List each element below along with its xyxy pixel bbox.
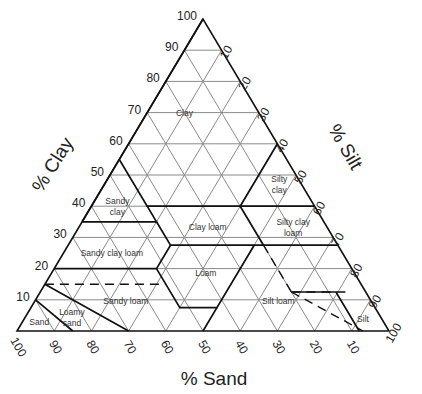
sand-tick-label: 50 bbox=[195, 338, 214, 357]
clay-tick-label: 20 bbox=[35, 259, 49, 273]
class-label-clay: Clay bbox=[176, 108, 194, 118]
clay-tick-label: 90 bbox=[165, 40, 179, 54]
class-label-line: Sand bbox=[29, 317, 49, 327]
sand-tick-label: 30 bbox=[269, 338, 288, 357]
clay-tick-label: 100 bbox=[177, 9, 197, 23]
class-label-line: Silty bbox=[271, 174, 288, 184]
class-label-line: Silt bbox=[357, 314, 369, 324]
sand-tick-label: 100 bbox=[7, 335, 29, 360]
class-label-sandy-clay-loam: Sandy clay loam bbox=[81, 248, 143, 258]
clay-tick-label: 70 bbox=[128, 103, 142, 117]
grid-lines bbox=[36, 50, 371, 331]
clay-tick-label: 30 bbox=[53, 227, 67, 241]
sand-tick-label: 80 bbox=[83, 338, 102, 357]
class-label-silty-clay-loam: Silty clayloam bbox=[276, 217, 310, 238]
sand-axis-ticks: 100908070605040302010 bbox=[7, 335, 362, 360]
class-label-line: Silt loam bbox=[262, 296, 295, 306]
grid-line-silt bbox=[277, 237, 333, 331]
class-label-loamy-sand: Loamysand bbox=[59, 307, 85, 328]
class-label-line: Loamy bbox=[59, 307, 85, 317]
sand-tick-label: 20 bbox=[307, 338, 326, 357]
class-label-line: loam bbox=[284, 228, 302, 238]
sand-tick-label: 90 bbox=[46, 338, 65, 357]
clay-tick-label: 60 bbox=[109, 134, 123, 148]
clay-tick-label: 50 bbox=[91, 165, 105, 179]
class-boundary bbox=[291, 292, 359, 331]
class-label-silty-clay: Siltyclay bbox=[271, 174, 288, 195]
class-label-line: Sandy loam bbox=[103, 296, 148, 306]
class-label-line: Loam bbox=[195, 268, 216, 278]
class-boundary bbox=[157, 222, 338, 245]
class-label-sandy-loam: Sandy loam bbox=[103, 296, 148, 306]
soil-texture-triangle: 102030405060708090100 102030405060708090… bbox=[0, 0, 422, 394]
class-label-loam: Loam bbox=[195, 268, 216, 278]
class-label-line: Clay bbox=[176, 108, 194, 118]
class-label-line: Clay loam bbox=[189, 222, 227, 232]
sand-tick-label: 60 bbox=[158, 338, 177, 357]
grid-line-sand bbox=[184, 50, 351, 331]
sand-tick-label: 40 bbox=[232, 338, 251, 357]
class-label-line: Sandy bbox=[105, 196, 130, 206]
clay-axis-ticks: 102030405060708090100 bbox=[16, 9, 197, 304]
class-boundary bbox=[203, 308, 217, 331]
clay-tick-label: 40 bbox=[72, 196, 86, 210]
class-label-line: clay bbox=[110, 207, 126, 217]
clay-tick-label: 80 bbox=[146, 71, 160, 85]
class-label-line: Sandy clay loam bbox=[81, 248, 143, 258]
class-label-line: Silty clay bbox=[276, 217, 310, 227]
class-boundary bbox=[240, 206, 263, 245]
sand-axis-label: % Sand bbox=[181, 368, 248, 389]
class-label-clay-loam: Clay loam bbox=[189, 222, 227, 232]
clay-tick-label: 10 bbox=[16, 290, 30, 304]
class-label-silt: Silt bbox=[357, 314, 369, 324]
class-boundary-dashed bbox=[291, 292, 363, 331]
silt-axis-label: % Silt bbox=[324, 120, 367, 173]
clay-axis-label: % Clay bbox=[28, 133, 78, 196]
class-labels: ClaySandyclaySiltyclayClay loamSilty cla… bbox=[29, 108, 369, 328]
sand-tick-label: 70 bbox=[121, 338, 140, 357]
class-label-silt-loam: Silt loam bbox=[262, 296, 295, 306]
class-label-line: sand bbox=[63, 318, 82, 328]
sand-tick-label: 10 bbox=[344, 338, 363, 357]
class-label-line: clay bbox=[272, 185, 288, 195]
class-label-sand: Sand bbox=[29, 317, 49, 327]
